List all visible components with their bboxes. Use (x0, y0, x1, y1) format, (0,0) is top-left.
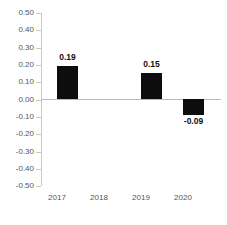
y-axis-tick-label: 0.20 (2, 60, 34, 69)
y-axis-tick-mark (36, 13, 41, 14)
y-axis-tick-label: -0.40 (2, 164, 34, 173)
bar-value-label-2019: 0.15 (132, 59, 172, 69)
plot-area: 0.19 0.15 -0.09 (42, 13, 221, 186)
x-axis-tick-label-2020: 2020 (161, 193, 205, 202)
y-axis-tick-mark (36, 48, 41, 49)
y-axis-tick-mark (36, 169, 41, 170)
y-axis-tick-mark (36, 117, 41, 118)
y-axis-tick-label: -0.10 (2, 112, 34, 121)
y-axis-tick-mark (36, 82, 41, 83)
y-axis-tick-label: 0.30 (2, 43, 34, 52)
y-axis-tick-label: 0.10 (2, 77, 34, 86)
x-axis-tick-label-2018: 2018 (77, 193, 121, 202)
x-axis-tick-label-2019: 2019 (119, 193, 163, 202)
y-axis-tick-label: -0.20 (2, 129, 34, 138)
x-axis-tick-label-2017: 2017 (35, 193, 79, 202)
bar-2019[interactable] (141, 73, 162, 99)
y-axis-tick-mark (36, 65, 41, 66)
bar-2020[interactable] (183, 99, 204, 115)
y-axis-tick-mark (36, 186, 41, 187)
bar-2017[interactable] (57, 66, 78, 99)
y-axis-tick-mark (36, 152, 41, 153)
y-axis-tick-label: -0.30 (2, 147, 34, 156)
y-axis-tick-label: 0.00 (2, 95, 34, 104)
y-axis-tick-mark (36, 30, 41, 31)
y-axis-tick-label: 0.50 (2, 8, 34, 17)
bar-chart: 0.50 0.40 0.30 0.20 0.10 0.00 -0.10 -0.2… (0, 0, 227, 225)
bar-value-label-2017: 0.19 (48, 52, 88, 62)
y-axis-tick-label: -0.50 (2, 181, 34, 190)
y-axis-tick-label: 0.40 (2, 25, 34, 34)
bar-value-label-2020: -0.09 (174, 116, 214, 126)
y-axis-tick-mark (36, 100, 41, 101)
y-axis-tick-mark (36, 134, 41, 135)
